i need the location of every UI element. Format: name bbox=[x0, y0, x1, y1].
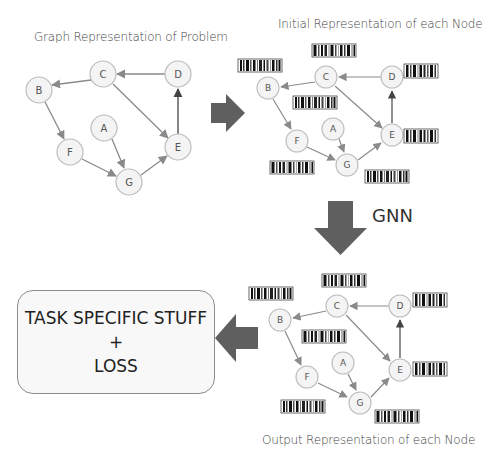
edge-f-g bbox=[82, 159, 116, 176]
left-arrow-icon bbox=[215, 314, 258, 362]
svg-text:F: F bbox=[304, 372, 309, 382]
edge-a-g bbox=[112, 139, 124, 168]
input-graph-nodes bbox=[26, 61, 191, 195]
node-c-label: C bbox=[100, 69, 107, 80]
embedding-e-icon bbox=[404, 129, 438, 143]
svg-text:F: F bbox=[294, 136, 299, 146]
node-a-label: A bbox=[101, 123, 108, 134]
output-representation-graph: B C D A E F G bbox=[249, 274, 447, 423]
node-b-label: B bbox=[36, 85, 43, 96]
node-e-label: E bbox=[175, 142, 181, 153]
input-graph: B C D A E F G bbox=[26, 61, 191, 195]
node-d-label: D bbox=[174, 69, 182, 80]
output-embedding-d-icon bbox=[413, 293, 447, 307]
node-f-label: F bbox=[67, 147, 73, 158]
output-node-embeddings bbox=[249, 274, 447, 423]
embedding-b-icon bbox=[238, 59, 282, 72]
right-arrow-icon bbox=[211, 94, 245, 132]
output-embedding-f-icon bbox=[281, 400, 325, 413]
output-graph-nodes bbox=[269, 295, 411, 414]
edge-c-e bbox=[113, 84, 168, 138]
diagram-svg: B C D A E F G bbox=[0, 0, 496, 459]
edge-c-b bbox=[52, 80, 91, 85]
output-embedding-mid-icon bbox=[302, 330, 346, 343]
svg-text:D: D bbox=[397, 301, 404, 311]
edge-g-e bbox=[141, 156, 167, 175]
embedding-c-icon bbox=[312, 44, 356, 57]
svg-text:G: G bbox=[357, 398, 364, 408]
svg-text:E: E bbox=[389, 130, 395, 140]
svg-text:E: E bbox=[397, 365, 403, 375]
embedding-f-icon bbox=[270, 161, 314, 174]
svg-text:B: B bbox=[265, 83, 271, 93]
svg-text:A: A bbox=[340, 358, 347, 368]
initial-graph-nodes bbox=[257, 66, 403, 176]
svg-text:G: G bbox=[344, 160, 351, 170]
output-embedding-b-icon bbox=[249, 287, 293, 300]
initial-representation-graph: B C D A E F G bbox=[238, 44, 438, 183]
svg-text:C: C bbox=[334, 301, 340, 311]
svg-text:C: C bbox=[323, 72, 329, 82]
embedding-g-icon bbox=[365, 170, 409, 183]
svg-text:B: B bbox=[277, 315, 283, 325]
output-embedding-c-icon bbox=[322, 274, 366, 287]
svg-text:D: D bbox=[389, 72, 396, 82]
down-arrow-icon bbox=[314, 201, 367, 255]
embedding-mid-icon bbox=[293, 96, 337, 109]
embedding-d-icon bbox=[404, 64, 438, 78]
node-g-label: G bbox=[125, 177, 133, 188]
output-embedding-e-icon bbox=[413, 362, 447, 376]
edge-b-f bbox=[45, 102, 64, 139]
diagram-canvas: Graph Representation of Problem Initial … bbox=[0, 0, 496, 459]
output-embedding-g-icon bbox=[375, 410, 419, 423]
svg-text:A: A bbox=[330, 124, 337, 134]
